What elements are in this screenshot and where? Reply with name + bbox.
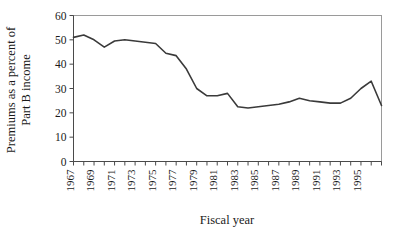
x-tick-label: 1981 [207, 170, 219, 192]
x-tick-label: 1993 [330, 169, 342, 192]
x-axis-tick-labels: 1967196919711973197519771979198119831985… [64, 169, 363, 192]
y-axis-title-line2: Part B income [19, 54, 33, 126]
x-tick-label: 1977 [166, 169, 178, 192]
y-tick-label: 10 [55, 131, 67, 143]
plot-area-frame [74, 16, 382, 162]
x-tick-label: 1971 [105, 170, 117, 192]
x-tick-label: 1987 [269, 169, 281, 192]
x-tick-label: 1991 [310, 170, 322, 192]
y-tick-label: 0 [61, 156, 67, 168]
x-tick-label: 1989 [289, 169, 301, 192]
x-axis-title: Fiscal year [200, 213, 255, 227]
x-tick-label: 1969 [84, 169, 96, 192]
line-chart: 0102030405060 19671969197119731975197719… [0, 0, 401, 234]
data-series-line [74, 35, 382, 108]
y-tick-label: 30 [55, 83, 67, 95]
x-tick-label: 1975 [146, 169, 158, 192]
x-tick-label: 1985 [248, 169, 260, 192]
x-tick-label: 1979 [187, 169, 199, 192]
y-tick-label: 40 [55, 58, 67, 70]
x-tick-label: 1973 [125, 169, 137, 192]
x-tick-label: 1983 [228, 169, 240, 192]
y-tick-label: 50 [55, 34, 67, 46]
x-tick-label: 1967 [64, 169, 76, 192]
x-tick-label: 1995 [351, 169, 363, 192]
y-axis-tick-labels: 0102030405060 [55, 10, 67, 168]
x-axis-ticks [74, 162, 382, 166]
chart-figure: 0102030405060 19671969197119731975197719… [0, 0, 401, 234]
y-tick-label: 60 [55, 10, 67, 22]
y-tick-label: 20 [55, 107, 67, 119]
y-axis-title-line1: Premiums as a percent of [4, 26, 18, 153]
